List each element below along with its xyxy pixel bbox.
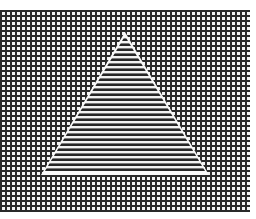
figure-description: Triangle of horizontal stripes on a squa… — [0, 0, 1, 1]
stimulus-figure: Triangle of horizontal stripes on a squa… — [0, 0, 256, 219]
